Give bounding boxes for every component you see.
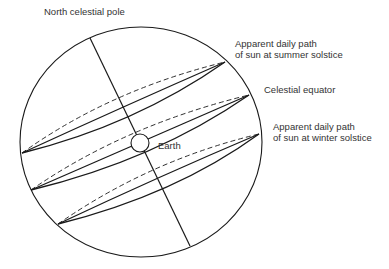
north-pole-label: North celestial pole: [44, 6, 125, 17]
summer-path-label-line1: Apparent daily path: [235, 38, 317, 49]
celestial-sphere-diagram: North celestial pole Apparent daily path…: [0, 0, 389, 269]
earth-label: Earth: [158, 140, 181, 151]
winter-path-label-line2: of sun at winter solstice: [273, 132, 372, 143]
summer-solstice-path: [22, 62, 225, 153]
equator-label: Celestial equator: [264, 84, 335, 95]
earth-circle: [131, 134, 149, 152]
summer-path-label-line2: of sun at summer solstice: [235, 49, 343, 60]
winter-path-label-line1: Apparent daily path: [273, 121, 355, 132]
